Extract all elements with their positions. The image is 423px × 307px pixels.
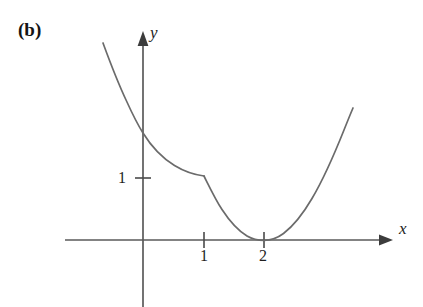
figure-panel: (b) y x 1 1 2 [0,0,423,307]
y-axis-arrowhead [138,31,149,46]
function-curve [103,43,353,240]
panel-label: (b) [18,20,41,39]
curve-right-branch [204,108,353,240]
y-axis-label: y [150,24,158,41]
x-tick-label-2: 2 [259,248,267,264]
x-axis-arrowhead [379,235,393,246]
x-axis [65,235,393,246]
graph-canvas [0,0,423,307]
curve-left-branch [103,43,204,176]
y-tick-label-1: 1 [118,170,126,186]
tick-marks [135,178,264,248]
y-axis [138,31,149,307]
x-axis-label: x [399,220,407,237]
x-tick-label-1: 1 [200,248,208,264]
